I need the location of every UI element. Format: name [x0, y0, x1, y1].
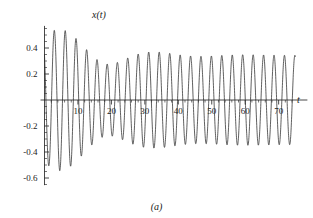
figure-panel: 102030405060700.40.2-0.2-0.4-0.6 x(t) t …	[0, 0, 313, 218]
data-series-curve	[45, 30, 296, 170]
y-tick-label: -0.2	[23, 121, 37, 131]
y-axis-title: x(t)	[91, 9, 107, 21]
y-tick-label: 0.4	[26, 43, 38, 53]
plot-area: 102030405060700.40.2-0.2-0.4-0.6 x(t) t	[0, 0, 313, 218]
y-tick-label: 0.2	[26, 69, 37, 79]
y-tick-label: -0.4	[23, 147, 38, 157]
x-axis-title: t	[297, 94, 300, 105]
x-tick-label: 70	[274, 106, 284, 116]
x-tick-label: 40	[174, 106, 184, 116]
x-tick-label: 10	[73, 106, 83, 116]
x-tick-label: 30	[140, 106, 150, 116]
y-tick-label: -0.6	[23, 173, 38, 183]
x-tick-label: 20	[107, 106, 117, 116]
figure-caption: (a)	[0, 201, 313, 212]
